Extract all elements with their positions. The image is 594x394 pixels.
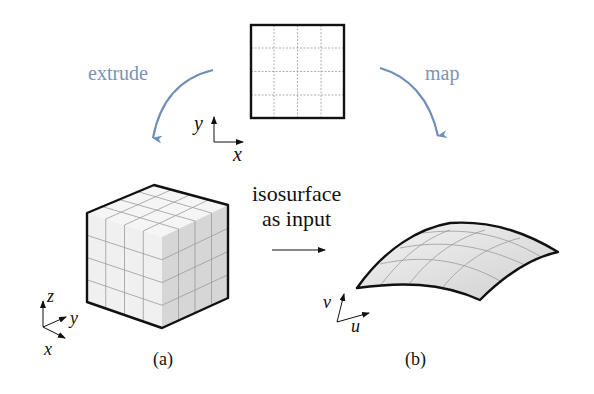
square-axis-x: x: [233, 143, 242, 166]
caption-b: (b): [405, 349, 426, 370]
extrude-arrow-icon: [153, 70, 213, 138]
square-2d: [251, 25, 344, 118]
cube-3d: [87, 185, 228, 328]
square-axes-icon: [214, 117, 243, 142]
cube-axis-z: z: [47, 286, 54, 307]
cube-axis-x: x: [44, 339, 52, 360]
diagram: extrude map y x isosurface as input z y …: [0, 0, 594, 394]
cube-axis-y: y: [70, 308, 78, 329]
surface-axis-u: u: [351, 316, 360, 337]
iso-label-line2: as input: [262, 206, 331, 232]
map-label: map: [425, 62, 459, 85]
iso-label-line1: isosurface: [252, 181, 341, 207]
surface-axis-v: v: [323, 292, 331, 313]
extrude-label: extrude: [88, 62, 148, 85]
curved-surface: [357, 223, 558, 300]
caption-a: (a): [153, 349, 173, 370]
square-axis-y: y: [194, 112, 203, 135]
